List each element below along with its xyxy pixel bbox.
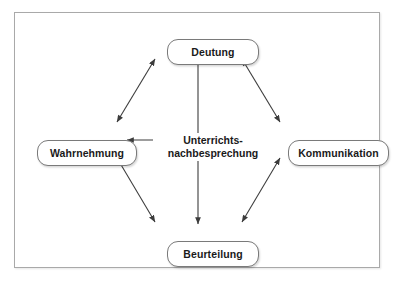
node-kommunikation-label: Kommunikation xyxy=(298,148,379,159)
node-kommunikation[interactable]: Kommunikation xyxy=(288,140,389,166)
node-deutung-label: Deutung xyxy=(191,47,234,58)
diagram-frame: Deutung Wahrnehmung Kommunikation Beurte… xyxy=(14,12,380,268)
arrow-beurteilung-kommunikation xyxy=(242,158,280,222)
arrow-deutung-kommunikation xyxy=(242,59,280,122)
node-wahrnehmung-label: Wahrnehmung xyxy=(50,148,124,159)
node-deutung[interactable]: Deutung xyxy=(167,39,259,65)
center-caption-line-2: nachbesprechung xyxy=(153,147,273,160)
arrow-wahrnehmung-beurteilung xyxy=(117,158,155,222)
center-caption-line-1: Unterrichts- xyxy=(153,134,273,147)
node-beurteilung[interactable]: Beurteilung xyxy=(167,241,259,267)
diagram-figure: Deutung Wahrnehmung Kommunikation Beurte… xyxy=(0,0,397,282)
node-wahrnehmung[interactable]: Wahrnehmung xyxy=(37,140,137,166)
arrow-wahrnehmung-deutung xyxy=(117,59,155,122)
node-beurteilung-label: Beurteilung xyxy=(183,249,242,260)
center-caption: Unterrichts- nachbesprechung xyxy=(153,133,273,161)
